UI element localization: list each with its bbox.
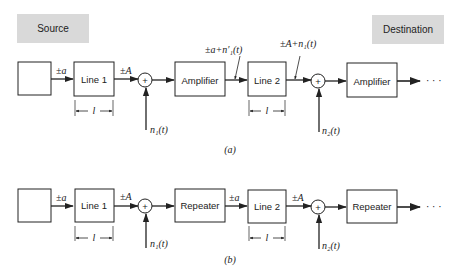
source-block-b	[18, 189, 51, 222]
noise2-label-a: n₂(t)	[322, 125, 341, 137]
repeater1-out-b: ±a	[229, 192, 240, 203]
source-label: Source	[37, 23, 69, 34]
input-signal-a: ±a	[56, 65, 67, 76]
adder1-symbol-a: +	[142, 75, 148, 86]
line2-label-b: Line 2	[254, 201, 280, 212]
noise2-label-b: n₂(t)	[322, 240, 341, 252]
amplifier2-label-a: Amplifier	[354, 76, 391, 87]
caption-b: (b)	[224, 254, 236, 266]
noise1-label-b: n₁(t)	[150, 238, 169, 250]
line1-out-a: ±A	[120, 65, 132, 76]
length1-label-b: l	[93, 232, 96, 243]
transmission-diagram: Source Destination ±a Line	[0, 0, 460, 277]
line2-out-a: ±A+n₁(t)	[280, 38, 317, 50]
repeater2-label-b: Repeater	[352, 201, 391, 212]
adder1-symbol-b: +	[142, 201, 148, 212]
destination-badge: Destination	[372, 15, 444, 44]
line2-out-b: ±A	[292, 192, 304, 203]
line1-out-b: ±A	[120, 191, 132, 202]
source-badge: Source	[17, 14, 89, 43]
noise1-label-a: n₁(t)	[150, 124, 169, 136]
input-signal-b: ±a	[56, 192, 67, 203]
length1-label-a: l	[93, 105, 96, 116]
pointer-a-2	[295, 56, 300, 79]
diagram-a	[18, 56, 420, 132]
caption-a: (a)	[224, 144, 236, 156]
amplifier1-out-a: ±a+n′₁(t)	[205, 44, 243, 56]
length2-label-b: l	[266, 232, 269, 243]
adder2-symbol-a: +	[315, 76, 321, 87]
line1-label-a: Line 1	[81, 74, 107, 85]
amplifier1-label-a: Amplifier	[182, 75, 219, 86]
length2-label-a: l	[266, 105, 269, 116]
repeater1-label-b: Repeater	[180, 200, 219, 211]
pointer-a-1	[235, 56, 240, 79]
ellipsis-a: · · ·	[426, 75, 442, 86]
adder2-symbol-b: +	[315, 202, 321, 213]
destination-label: Destination	[383, 24, 433, 35]
diagram-b	[18, 189, 420, 249]
line1-label-b: Line 1	[81, 200, 107, 211]
line2-label-a: Line 2	[254, 75, 280, 86]
ellipsis-b: · · ·	[426, 201, 442, 212]
source-block-a	[18, 62, 51, 95]
